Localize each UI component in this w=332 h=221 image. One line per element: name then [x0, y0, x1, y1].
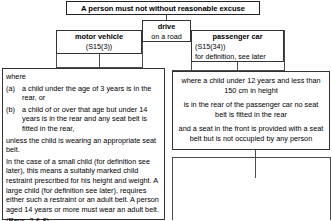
- where-item-marker: (b): [6, 105, 22, 134]
- passenger-car-node: passenger car (S15(34)) for definition, …: [191, 30, 284, 62]
- connector-motor-center-drop: [99, 54, 100, 68]
- where-item: (b) a child of or over that age but unde…: [6, 105, 161, 134]
- drive-node: drive on a road: [142, 20, 191, 42]
- where-item-text: a child of or over that age but under 14…: [22, 105, 161, 134]
- passenger-car-conditions-panel: where a child under 12 years and less th…: [172, 71, 330, 150]
- where-conditions-panel: where (a) a child under the age of 3 yea…: [2, 68, 165, 220]
- motor-vehicle-heading: motor vehicle: [57, 32, 141, 42]
- connector-passenger-center-drop: [237, 62, 238, 71]
- passenger-car-ref: (S15(34)): [195, 42, 283, 52]
- right-paragraph: is in the rear of the passenger car no s…: [177, 100, 325, 119]
- motor-vehicle-ref: (S15(3)): [57, 42, 141, 52]
- connector-bottom-left-edge: [172, 157, 173, 220]
- where-item-text: a child under the age of 3 years is in t…: [22, 84, 161, 103]
- drive-sub: on a road: [143, 32, 190, 42]
- right-paragraph: and a seat in the front is provided with…: [177, 124, 325, 143]
- passenger-car-note: for definition, see later: [195, 52, 283, 62]
- drive-heading: drive: [143, 22, 190, 32]
- where-item-marker: (a): [6, 84, 22, 103]
- where-paragraph: In the case of a small child (for defini…: [6, 157, 161, 215]
- connector-bottom-bar: [172, 157, 330, 158]
- where-regulation-ref: (Regs. 2 & 8).: [6, 216, 161, 221]
- connector-bottom-right-edge: [330, 157, 331, 220]
- rule-title-box: A person must not without reasonable exc…: [66, 1, 260, 15]
- passenger-car-heading: passenger car: [195, 32, 283, 42]
- connector-right-panel-tail: [255, 150, 256, 178]
- connector-motor-right-drop: [142, 42, 143, 68]
- connector-passenger-right-drop: [284, 30, 285, 71]
- motor-vehicle-node: motor vehicle (S15(3)): [56, 30, 142, 54]
- where-lead: where: [6, 72, 161, 82]
- right-paragraph: where a child under 12 years and less th…: [177, 76, 325, 95]
- where-item: (a) a child under the age of 3 years is …: [6, 84, 161, 103]
- where-paragraph: unless the child is wearing an appropria…: [6, 136, 161, 155]
- rule-title-text: A person must not without reasonable exc…: [81, 4, 245, 13]
- diagram-canvas: A person must not without reasonable exc…: [0, 0, 332, 221]
